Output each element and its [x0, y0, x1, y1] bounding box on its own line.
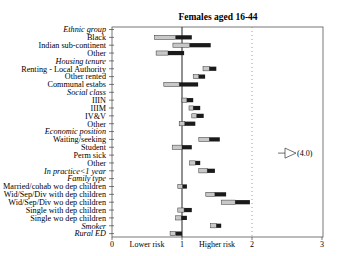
ci-lower-bar — [182, 98, 187, 102]
ci-upper-bar — [184, 208, 192, 212]
ci-upper-bar — [181, 216, 187, 220]
ci-lower-bar — [156, 51, 168, 55]
ci-upper-bar — [176, 232, 182, 236]
ci-lower-bar — [178, 184, 183, 188]
ci-lower-bar — [211, 224, 217, 228]
chart-title: Females aged 16-44 — [178, 12, 257, 22]
ci-lower-bar — [178, 208, 184, 212]
ci-upper-bar — [187, 98, 193, 102]
ci-lower-bar — [193, 75, 199, 79]
ci-lower-bar — [164, 82, 179, 86]
ci-lower-bar — [203, 67, 209, 71]
x-axis: 0123Lower riskHigher risk — [110, 237, 324, 249]
ci-lower-bar — [206, 192, 215, 196]
x-tick-label: 0 — [110, 240, 114, 249]
ci-lower-bar — [221, 200, 235, 204]
ci-upper-bar — [168, 51, 184, 55]
x-tick-label: 1 — [180, 240, 184, 249]
ci-lower-bar — [176, 216, 182, 220]
lower-risk-label: Lower risk — [130, 240, 165, 249]
ci-lower-bar — [172, 145, 182, 149]
ci-upper-bar — [195, 161, 200, 165]
plot-frame — [109, 27, 323, 237]
odds-ratio-chart: Females aged 16-44 Ethnic groupBlackIndi… — [0, 0, 339, 256]
ci-lower-bar — [199, 137, 210, 141]
ci-lower-bar — [189, 106, 193, 110]
ci-upper-bar — [209, 67, 216, 71]
ci-upper-bar — [199, 75, 205, 79]
ci-lower-bar — [192, 114, 197, 118]
ci-upper-bar — [216, 224, 221, 228]
ci-upper-bar — [179, 82, 198, 86]
ci-upper-bar — [182, 145, 192, 149]
x-tick-label: 2 — [250, 240, 254, 249]
bars: (4.0) — [155, 35, 313, 235]
ci-upper-bar — [215, 192, 226, 196]
ci-upper-bar — [183, 184, 187, 188]
ci-lower-bar — [155, 35, 176, 39]
ci-upper-bar — [190, 43, 211, 47]
offscale-arrow-icon — [285, 148, 296, 158]
ci-lower-bar — [170, 232, 176, 236]
higher-risk-label: Higher risk — [199, 240, 235, 249]
ci-upper-bar — [197, 114, 204, 118]
ci-lower-bar — [179, 122, 185, 126]
ci-upper-bar — [193, 106, 200, 110]
offscale-value: (4.0) — [297, 149, 313, 158]
ci-upper-bar — [176, 35, 192, 39]
plot-border — [112, 27, 323, 237]
ci-lower-bar — [173, 43, 190, 47]
row-labels: Ethnic groupBlackIndian sub-continentOth… — [3, 25, 107, 238]
row-label: Rural ED — [73, 229, 106, 238]
x-tick-label: 3 — [320, 240, 324, 249]
ci-upper-bar — [209, 137, 220, 141]
ci-upper-bar — [235, 200, 250, 204]
ci-lower-bar — [190, 161, 196, 165]
ci-upper-bar — [185, 122, 196, 126]
ci-upper-bar — [207, 169, 215, 173]
ci-lower-bar — [199, 169, 207, 173]
